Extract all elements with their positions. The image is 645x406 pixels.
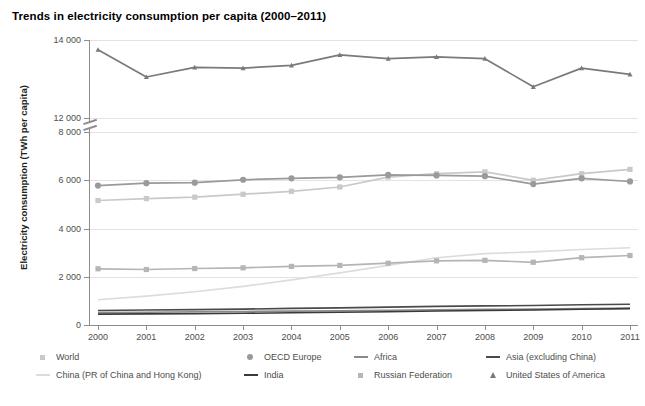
- data-point: [627, 167, 632, 172]
- data-point: [289, 264, 294, 269]
- plot-area: 14 00012 0008 0006 0004 0002 0000 200020…: [90, 40, 638, 325]
- y-tick: [84, 325, 90, 326]
- data-point: [530, 181, 536, 187]
- data-point: [96, 47, 101, 52]
- data-point: [288, 175, 294, 181]
- y-tick-label: 12 000: [53, 113, 81, 123]
- chart-title: Trends in electricity consumption per ca…: [12, 10, 326, 22]
- legend-label: World: [56, 352, 79, 362]
- legend-label: China (PR of China and Hong Kong): [56, 370, 202, 380]
- data-point: [240, 192, 245, 197]
- series-line: [98, 50, 630, 87]
- line-marker-icon: [36, 370, 50, 380]
- series-line: [98, 175, 630, 186]
- y-tick-label: 14 000: [53, 35, 81, 45]
- chart-root: Trends in electricity consumption per ca…: [0, 0, 645, 406]
- legend-label: OECD Europe: [264, 352, 322, 362]
- legend-label: Russian Federation: [374, 370, 452, 380]
- x-tick: [437, 325, 438, 330]
- data-point: [192, 266, 197, 271]
- series-line: [98, 169, 630, 200]
- x-tick: [146, 325, 147, 330]
- legend-item-world[interactable]: World: [36, 352, 79, 362]
- legend-item-africa[interactable]: Africa: [354, 352, 397, 362]
- x-axis-line: [89, 325, 638, 326]
- x-tick: [582, 325, 583, 330]
- data-point: [627, 178, 633, 184]
- square-marker-icon: [36, 352, 50, 362]
- data-point: [386, 261, 391, 266]
- x-tick: [630, 325, 631, 330]
- y-axis-title: Electricity consumption (TWh per capita): [18, 58, 29, 298]
- y-tick-label: 8 000: [58, 127, 81, 137]
- y-tick-label: 6 000: [58, 175, 81, 185]
- series-line: [98, 248, 630, 300]
- series-oecd-europe: [95, 172, 633, 189]
- x-tick: [291, 325, 292, 330]
- data-point: [385, 172, 391, 178]
- triangle-marker-icon: [486, 370, 500, 380]
- series-world: [95, 167, 632, 203]
- x-tick-label: 2006: [378, 332, 398, 342]
- data-point: [531, 260, 536, 265]
- x-tick-label: 2011: [620, 332, 639, 342]
- circle-marker-icon: [244, 352, 258, 362]
- legend-item-china-pr-of-china-and-hong-kong[interactable]: China (PR of China and Hong Kong): [36, 370, 202, 380]
- legend-item-india[interactable]: India: [244, 370, 284, 380]
- data-point: [240, 177, 246, 183]
- data-point: [434, 258, 439, 263]
- legend-item-russian-federation[interactable]: Russian Federation: [354, 370, 452, 380]
- series-china-pr-of-china-and-hong-kong: [98, 248, 630, 300]
- line-marker-icon: [354, 352, 368, 362]
- data-point: [95, 266, 100, 271]
- data-point: [337, 184, 342, 189]
- data-point: [579, 175, 585, 181]
- square-marker-icon: [354, 370, 368, 380]
- x-tick-label: 2004: [281, 332, 301, 342]
- legend-label: Africa: [374, 352, 397, 362]
- data-point: [482, 173, 488, 179]
- legend-item-oecd-europe[interactable]: OECD Europe: [244, 352, 322, 362]
- data-point: [143, 180, 149, 186]
- x-tick: [533, 325, 534, 330]
- x-tick: [195, 325, 196, 330]
- x-tick-label: 2009: [523, 332, 543, 342]
- series-line: [98, 256, 630, 270]
- data-point: [433, 172, 439, 178]
- data-point: [579, 255, 584, 260]
- data-point: [240, 265, 245, 270]
- x-tick-label: 2003: [233, 332, 253, 342]
- data-point: [95, 198, 100, 203]
- legend-item-united-states-of-america[interactable]: United States of America: [486, 370, 605, 380]
- x-tick-label: 2002: [185, 332, 205, 342]
- legend-item-asia-excluding-china[interactable]: Asia (excluding China): [486, 352, 596, 362]
- legend-label: Asia (excluding China): [506, 352, 596, 362]
- line-marker-icon: [244, 370, 258, 380]
- y-tick-label: 4 000: [58, 224, 81, 234]
- data-point: [95, 182, 101, 188]
- series-united-states-of-america: [96, 47, 633, 89]
- x-tick-label: 2007: [427, 332, 447, 342]
- series-layer: [90, 40, 638, 325]
- y-tick-label: 0: [76, 320, 81, 330]
- legend-label: United States of America: [506, 370, 605, 380]
- x-tick-label: 2008: [475, 332, 495, 342]
- line-marker-icon: [486, 352, 500, 362]
- data-point: [192, 180, 198, 186]
- data-point: [482, 258, 487, 263]
- x-tick: [388, 325, 389, 330]
- data-point: [192, 195, 197, 200]
- legend-label: India: [264, 370, 284, 380]
- chart-legend: WorldOECD EuropeAfricaAsia (excluding Ch…: [36, 352, 636, 394]
- data-point: [337, 174, 343, 180]
- x-tick-label: 2010: [572, 332, 592, 342]
- x-tick-label: 2001: [136, 332, 156, 342]
- data-point: [627, 253, 632, 258]
- x-tick: [243, 325, 244, 330]
- x-tick: [340, 325, 341, 330]
- data-point: [337, 263, 342, 268]
- data-point: [144, 267, 149, 272]
- x-tick: [485, 325, 486, 330]
- y-tick-label: 2 000: [58, 272, 81, 282]
- data-point: [144, 196, 149, 201]
